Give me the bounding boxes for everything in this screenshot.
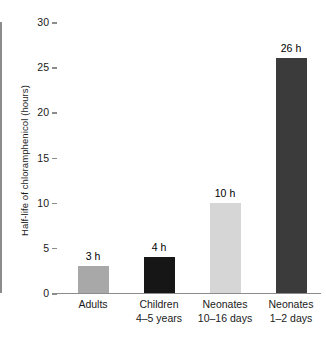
bar-value-label: 10 h bbox=[215, 187, 235, 199]
bar: 10 h bbox=[210, 203, 241, 293]
x-axis-category-labels: AdultsChildren4–5 yearsNeonates10–16 day… bbox=[57, 298, 321, 340]
x-axis-category-label-line: Neonates bbox=[258, 298, 324, 312]
y-axis-title: Half-life of chloramphenicol (hours) bbox=[19, 51, 30, 271]
y-axis-tick-label: 5 bbox=[43, 242, 49, 254]
bar: 26 h bbox=[276, 58, 307, 293]
y-axis-tick-mark bbox=[52, 293, 57, 295]
x-axis-category-label-line: Adults bbox=[60, 298, 126, 312]
x-axis-category-label: Neonates10–16 days bbox=[192, 298, 258, 325]
bar-value-label: 4 h bbox=[152, 241, 167, 253]
x-axis-category-label-line: 4–5 years bbox=[126, 312, 192, 326]
plot-area: 051015202530 3 h4 h10 h26 h bbox=[57, 22, 321, 293]
x-axis-category-label: Children4–5 years bbox=[126, 298, 192, 325]
y-axis-tick-label: 0 bbox=[43, 287, 49, 299]
x-axis-category-label: Neonates1–2 days bbox=[258, 298, 324, 325]
x-axis-category-label-line: Neonates bbox=[192, 298, 258, 312]
bar: 3 h bbox=[78, 266, 109, 293]
x-axis-category-label: Adults bbox=[60, 298, 126, 312]
y-axis-tick-label: 15 bbox=[37, 152, 49, 164]
y-axis-tick-label: 10 bbox=[37, 197, 49, 209]
y-axis-tick-label: 25 bbox=[37, 61, 49, 73]
x-axis-category-label-line: 1–2 days bbox=[258, 312, 324, 326]
bars-layer: 3 h4 h10 h26 h bbox=[57, 22, 321, 293]
bar-chart: Half-life of chloramphenicol (hours) 051… bbox=[0, 0, 326, 343]
bar-value-label: 3 h bbox=[86, 250, 101, 262]
bar: 4 h bbox=[144, 257, 175, 293]
y-axis-line bbox=[0, 22, 2, 293]
x-axis-category-label-line: Children bbox=[126, 298, 192, 312]
x-axis-category-label-line: 10–16 days bbox=[192, 312, 258, 326]
y-axis-tick-label: 20 bbox=[37, 106, 49, 118]
y-axis-tick-label: 30 bbox=[37, 16, 49, 28]
bar-value-label: 26 h bbox=[281, 42, 301, 54]
